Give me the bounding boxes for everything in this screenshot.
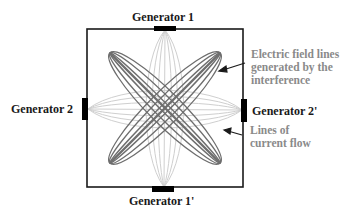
generator-1prime-block bbox=[152, 186, 174, 192]
arrow-icon-field-lines bbox=[219, 63, 245, 72]
generator-2-block bbox=[82, 98, 88, 120]
arrow-icon-current-flow bbox=[224, 128, 242, 135]
electric-field-annotation: Electric field lines generated by the in… bbox=[251, 48, 339, 87]
generator-2prime-label: Generator 2' bbox=[252, 105, 317, 118]
annotation-line: Lines of bbox=[250, 124, 311, 137]
generator-1-block bbox=[154, 26, 176, 31]
generator-2prime-block bbox=[241, 99, 247, 122]
generator-1-label: Generator 1 bbox=[132, 11, 194, 24]
generator-1prime-label: Generator 1' bbox=[129, 195, 194, 208]
generator-2-label: Generator 2 bbox=[11, 103, 73, 116]
annotation-line: Electric field lines bbox=[251, 48, 339, 61]
annotation-line: current flow bbox=[250, 137, 311, 150]
current-flow-annotation: Lines of current flow bbox=[250, 124, 311, 150]
annotation-line: interference bbox=[251, 74, 339, 87]
annotation-line: generated by the bbox=[251, 61, 339, 74]
